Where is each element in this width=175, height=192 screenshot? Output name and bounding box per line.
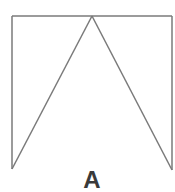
diagram-canvas: A — [0, 0, 175, 192]
figure-label: A — [80, 168, 104, 192]
right-diagonal — [92, 16, 172, 170]
square-with-inverted-v-figure — [0, 0, 175, 192]
left-diagonal — [12, 16, 92, 169]
